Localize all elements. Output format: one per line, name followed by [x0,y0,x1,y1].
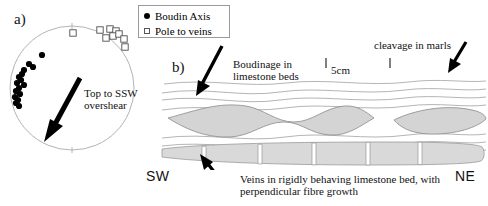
boudinage-arrow [196,46,222,96]
pole-to-veins-point [122,44,128,50]
pole-to-veins-point [103,35,109,41]
boudinage-label: Boudinage in limestone beds [233,59,299,82]
overshear-label-line1: Top to SSW [84,88,138,100]
boudin-axis-point [39,52,45,58]
direction-label-sw: SW [146,169,170,184]
veins-label: Veins in rigidly behaving limestone bed,… [240,174,440,197]
pole-to-veins-point [70,30,76,36]
filled-circle-icon [144,13,150,19]
pole-to-veins-point [107,26,113,32]
legend-label-boudin-axis: Boudin Axis [155,10,210,22]
legend-item-pole-to-veins: Pole to veins [144,23,229,38]
boudin-axis-point [30,64,36,70]
pole-to-veins-point [121,36,127,42]
open-square-icon [144,28,150,34]
figure-root: a) Top to SSW overshear Boudin Axis Pole… [0,0,488,206]
scale-bar-label: 5cm [331,65,350,77]
boudinage-label-line2: limestone beds [233,71,299,83]
boudin-axis-point [16,103,22,109]
veins-label-line1: Veins in rigidly behaving limestone bed,… [240,174,440,186]
legend-label-pole-to-veins: Pole to veins [155,25,212,37]
cross-section-diagram [160,40,488,170]
overshear-label-line2: overshear [84,100,138,112]
veins-label-line2: perpendicular fibre growth [240,186,440,198]
stereonet-plot [0,0,150,165]
legend-item-boudin-axis: Boudin Axis [144,8,229,23]
boudin-lens-right [394,108,486,134]
pole-to-veins-point [110,33,116,39]
pole-to-veins-point [97,27,103,33]
boudinage-label-line1: Boudinage in [233,59,299,71]
direction-label-ne: NE [455,169,475,184]
overshear-label: Top to SSW overshear [84,88,138,111]
cleavage-label: cleavage in marls [374,40,451,52]
legend-box: Boudin Axis Pole to veins [138,5,230,38]
